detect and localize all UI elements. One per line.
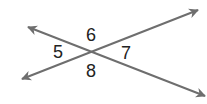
line-a	[22, 10, 198, 79]
angle-label-8: 8	[84, 62, 98, 80]
angle-label-5: 5	[51, 43, 65, 61]
intersecting-lines-diagram: 5 6 7 8	[0, 0, 207, 104]
angle-label-6: 6	[84, 26, 98, 44]
angle-label-7: 7	[119, 44, 133, 62]
diagram-canvas	[0, 0, 207, 104]
